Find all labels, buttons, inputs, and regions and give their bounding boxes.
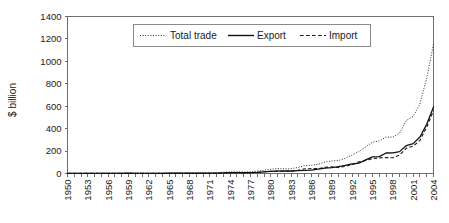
legend-label-total-trade: Total trade <box>170 30 217 41</box>
x-tick-label: 1965 <box>164 180 175 201</box>
x-tick-label: 1968 <box>184 180 195 201</box>
series-import-line <box>68 111 434 174</box>
y-tick-label: 600 <box>46 101 62 112</box>
y-tick-label: 800 <box>46 78 62 89</box>
x-tick-label: 2004 <box>428 180 439 201</box>
x-tick-label: 1989 <box>326 180 337 201</box>
line-chart: $ billion 0200400600800100012001400 1950… <box>0 0 449 223</box>
x-tick-label: 1959 <box>123 180 134 201</box>
x-tick-label: 1992 <box>347 180 358 201</box>
legend-label-import: Import <box>329 30 358 41</box>
chart-container: $ billion 0200400600800100012001400 1950… <box>0 0 449 223</box>
x-tick-label: 1983 <box>286 180 297 201</box>
x-tick-label: 1974 <box>225 180 236 201</box>
y-tick-label: 400 <box>46 123 62 134</box>
y-tick-label: 0 <box>56 168 61 179</box>
y-tick-label: 1200 <box>40 33 61 44</box>
y-tick-label: 1400 <box>40 11 61 22</box>
y-tick-label: 1000 <box>40 56 61 67</box>
x-tick-label: 1998 <box>387 180 398 201</box>
x-tick-label: 1977 <box>245 180 256 201</box>
chart-legend[interactable]: Total trade Export Import <box>134 25 371 47</box>
x-tick-label: 1950 <box>62 180 73 201</box>
series-export-line <box>68 107 434 173</box>
x-axis-ticks: 1950195319561959196219651968197119741977… <box>62 174 439 201</box>
x-tick-label: 1971 <box>204 180 215 201</box>
legend-label-export: Export <box>257 30 286 41</box>
x-tick-label: 1986 <box>306 180 317 201</box>
y-axis-title-label: $ billion <box>7 83 18 117</box>
x-tick-label: 1953 <box>82 180 93 201</box>
y-tick-label: 200 <box>46 145 62 156</box>
x-tick-label: 1956 <box>103 180 114 201</box>
x-tick-label: 1980 <box>265 180 276 201</box>
y-axis-title: $ billion <box>7 83 18 117</box>
x-tick-label: 1995 <box>367 180 378 201</box>
x-tick-label: 2001 <box>408 180 419 201</box>
y-axis-ticks: 0200400600800100012001400 <box>40 11 67 179</box>
data-series-group <box>68 44 434 173</box>
series-total-trade-line <box>68 44 434 173</box>
x-tick-label: 1962 <box>143 180 154 201</box>
